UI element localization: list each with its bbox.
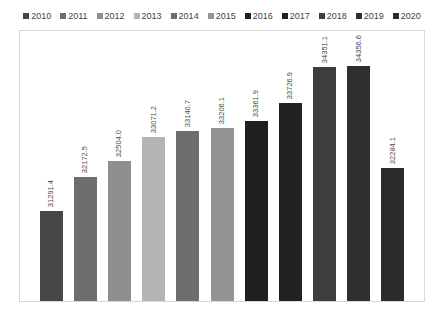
bar-slot-2011: 32172.5	[68, 31, 102, 301]
legend-label: 2018	[327, 11, 347, 21]
legend-label: 2016	[253, 11, 273, 21]
legend-label: 2012	[105, 11, 125, 21]
bar-2010[interactable]	[40, 211, 63, 301]
chart-legend: 2010201120122013201420152016201720182019…	[0, 9, 444, 23]
legend-label: 2015	[216, 11, 236, 21]
legend-item-2017[interactable]: 2017	[282, 11, 310, 21]
bar-2018[interactable]	[313, 67, 336, 301]
bar-slot-2016: 33361.9	[239, 31, 273, 301]
bar-slot-2010: 31291.4	[34, 31, 68, 301]
bar-chart: 2010201120122013201420152016201720182019…	[0, 0, 444, 317]
legend-swatch-icon	[60, 13, 66, 19]
legend-item-2010[interactable]: 2010	[23, 11, 51, 21]
legend-swatch-icon	[134, 13, 140, 19]
bar-2014[interactable]	[176, 131, 199, 301]
legend-label: 2017	[290, 11, 310, 21]
bar-value-label: 31291.4	[47, 180, 55, 207]
bar-2013[interactable]	[142, 137, 165, 301]
legend-swatch-icon	[356, 13, 362, 19]
bar-slot-2013: 33071.2	[137, 31, 171, 301]
bar-2011[interactable]	[74, 177, 97, 301]
legend-swatch-icon	[171, 13, 177, 19]
legend-label: 2011	[68, 11, 87, 21]
bar-value-label: 32172.5	[81, 146, 89, 173]
legend-item-2018[interactable]: 2018	[319, 11, 347, 21]
legend-item-2013[interactable]: 2013	[134, 11, 162, 21]
bar-slot-2018: 34351.1	[308, 31, 342, 301]
legend-swatch-icon	[245, 13, 251, 19]
legend-item-2011[interactable]: 2011	[60, 11, 87, 21]
bar-value-label: 33071.2	[150, 106, 158, 133]
legend-swatch-icon	[97, 13, 103, 19]
bar-2019[interactable]	[347, 66, 370, 301]
legend-swatch-icon	[282, 13, 288, 19]
bar-value-label: 32504.0	[115, 130, 123, 157]
bar-value-label: 33361.9	[252, 90, 260, 117]
bar-2016[interactable]	[245, 121, 268, 301]
legend-item-2014[interactable]: 2014	[171, 11, 199, 21]
bar-slot-2015: 33206.1	[205, 31, 239, 301]
legend-swatch-icon	[393, 13, 399, 19]
legend-label: 2013	[142, 11, 162, 21]
bar-2015[interactable]	[211, 128, 234, 301]
bar-value-label: 33206.1	[218, 97, 226, 124]
legend-item-2020[interactable]: 2020	[393, 11, 421, 21]
bars-container: 31291.432172.532504.033071.233140.733206…	[20, 31, 424, 301]
bar-slot-2014: 33140.7	[171, 31, 205, 301]
legend-item-2015[interactable]: 2015	[208, 11, 236, 21]
legend-swatch-icon	[23, 13, 29, 19]
bar-2020[interactable]	[381, 168, 404, 301]
bar-value-label: 32284.1	[389, 137, 397, 164]
bar-value-label: 33726.9	[286, 72, 294, 99]
legend-swatch-icon	[208, 13, 214, 19]
bar-slot-2020: 32284.1	[376, 31, 410, 301]
legend-swatch-icon	[319, 13, 325, 19]
legend-item-2012[interactable]: 2012	[97, 11, 125, 21]
bar-2017[interactable]	[279, 103, 302, 301]
bar-value-label: 34351.1	[321, 36, 329, 63]
legend-label: 2019	[364, 11, 384, 21]
legend-label: 2020	[401, 11, 421, 21]
bar-value-label: 34356.6	[355, 35, 363, 62]
legend-item-2019[interactable]: 2019	[356, 11, 384, 21]
bar-2012[interactable]	[108, 161, 131, 301]
legend-item-2016[interactable]: 2016	[245, 11, 273, 21]
legend-label: 2014	[179, 11, 199, 21]
bar-slot-2019: 34356.6	[342, 31, 376, 301]
bar-slot-2012: 32504.0	[102, 31, 136, 301]
bar-value-label: 33140.7	[184, 100, 192, 127]
bar-slot-2017: 33726.9	[273, 31, 307, 301]
legend-label: 2010	[31, 11, 51, 21]
